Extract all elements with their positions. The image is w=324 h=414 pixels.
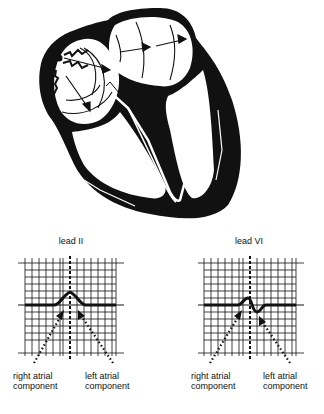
lead-vi-title: lead VI [219,236,279,246]
left-atrial-component-label: left atrial component [85,371,130,391]
left-atrial-component-label: left atrial component [263,371,308,391]
lead-ii-panel: lead II right atrial component left atri… [0,228,162,414]
heart-diagram [0,0,324,225]
lead-vi-panel: lead VI right atrial component left atri… [162,228,324,414]
right-atrial-component-label: right atrial component [191,371,236,391]
right-atrial-component-label: right atrial component [13,371,58,391]
lead-ii-title: lead II [41,236,101,246]
